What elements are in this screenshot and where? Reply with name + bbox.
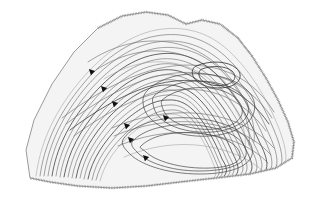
structural-contour-map-figure	[0, 0, 310, 201]
map-canvas	[0, 0, 310, 201]
